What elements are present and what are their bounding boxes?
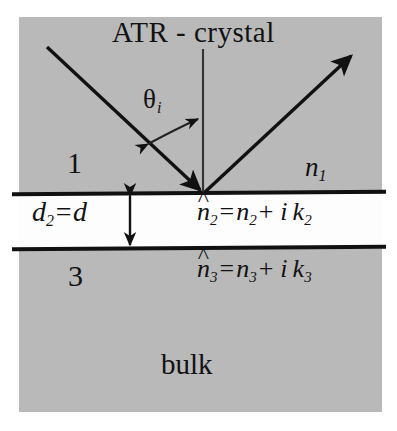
hat-accent-icon: ^	[198, 187, 209, 211]
angle-of-incidence-label: θi	[143, 86, 161, 116]
n2-symbol: n	[236, 197, 249, 226]
n2-hat-group: ^n	[197, 199, 210, 225]
n3-subscript: 3	[249, 269, 257, 285]
medium-2-complex-index-equation: ^n2=n2+ik2	[197, 199, 312, 228]
theta-subscript: i	[157, 99, 161, 116]
d-subscript: 2	[46, 212, 54, 229]
hat-accent-icon: ^	[198, 244, 209, 268]
n3-hat-subscript: 3	[210, 269, 218, 285]
medium-3-complex-index-equation: ^n3=n3+ik3	[197, 256, 312, 285]
medium-1-refractive-index-label: n1	[305, 154, 327, 184]
film-thickness-label: d2=d	[32, 198, 87, 229]
imaginary-unit: i	[280, 254, 287, 283]
figure-title: ATR - crystal	[112, 18, 275, 47]
medium-1-index-label: 1	[67, 148, 82, 178]
n3-symbol: n	[236, 254, 249, 283]
plus-sign: +	[259, 254, 274, 283]
n2-hat-subscript: 2	[210, 212, 218, 228]
bulk-medium-name-label: bulk	[161, 350, 213, 379]
d-equals-d: =d	[54, 196, 87, 227]
n1-symbol: n	[305, 152, 319, 182]
k3-subscript: 3	[304, 269, 312, 285]
k2-symbol: k	[293, 197, 305, 226]
equals-sign: =	[220, 197, 235, 226]
medium-3-index-label: 3	[68, 261, 83, 291]
n1-subscript: 1	[319, 167, 327, 184]
atr-layer-diagram: ATR - crystal θi 1 n1 d2=d ^n2=n2+ik2 3 …	[0, 0, 397, 431]
theta-symbol: θ	[143, 84, 156, 114]
imaginary-unit: i	[280, 197, 287, 226]
d-symbol: d	[32, 196, 46, 227]
n3-hat-group: ^n	[197, 256, 210, 282]
equals-sign: =	[220, 254, 235, 283]
n2-subscript: 2	[249, 212, 257, 228]
plus-sign: +	[259, 197, 274, 226]
k2-subscript: 2	[304, 212, 312, 228]
k3-symbol: k	[293, 254, 305, 283]
